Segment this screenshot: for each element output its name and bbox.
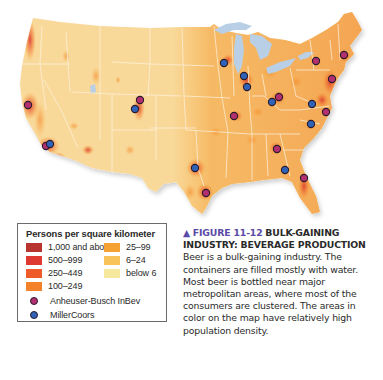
figure-number: FIGURE 11-12 — [193, 227, 263, 238]
swatch-100-249 — [26, 282, 42, 291]
legend-item-millercoors: MillerCoors — [26, 309, 166, 320]
legend-item-below-6: below 6 — [104, 268, 166, 278]
millercoors-brewery-marker — [281, 166, 288, 173]
millercoors-brewery-marker — [191, 164, 198, 171]
swatch-25-99 — [104, 243, 120, 252]
legend-label: 6–24 — [126, 255, 146, 265]
legend-title: Persons per square kilometer — [26, 228, 166, 239]
density-classes: 1,000 and above 25–99 500–999 6–24 250–4… — [26, 242, 166, 291]
millercoors-brewery-marker — [268, 98, 275, 105]
anheuser-busch-brewery-marker — [328, 75, 335, 82]
anheuser-busch-brewery-marker — [202, 189, 209, 196]
legend-label: 500–999 — [48, 255, 82, 265]
legend-item-6-24: 6–24 — [104, 255, 166, 265]
swatch-below-6 — [104, 269, 120, 278]
anheuser-busch-brewery-marker — [230, 112, 237, 119]
legend-label: Anheuser-Busch InBev — [50, 296, 140, 306]
legend-item-1000-above: 1,000 and above — [26, 242, 104, 252]
lake-superior — [214, 22, 252, 34]
millercoors-brewery-marker — [243, 83, 250, 90]
map-legend: Persons per square kilometer 1,000 and a… — [17, 223, 167, 322]
anheuser-busch-brewery-marker — [136, 96, 143, 103]
legend-label: below 6 — [126, 268, 156, 278]
millercoors-brewery-marker — [307, 120, 314, 127]
legend-label: 25–99 — [126, 242, 151, 252]
swatch-250-449 — [26, 269, 42, 278]
millercoors-brewery-marker — [308, 100, 315, 107]
millercoors-brewery-marker — [220, 59, 227, 66]
legend-item-250-449: 250–449 — [26, 268, 104, 278]
figure-caption: ▲ FIGURE 11-12 BULK-GAINING INDUSTRY: BE… — [183, 227, 379, 337]
anheuser-busch-dot-icon — [30, 297, 38, 305]
millercoors-brewery-marker — [240, 72, 247, 79]
anheuser-busch-brewery-marker — [275, 93, 282, 100]
anheuser-busch-brewery-marker — [340, 51, 347, 58]
millercoors-brewery-marker — [46, 140, 53, 147]
anheuser-busch-brewery-marker — [322, 108, 329, 115]
caption-triangle-icon: ▲ — [183, 227, 190, 238]
swatch-6-24 — [104, 256, 120, 265]
legend-label: 100–249 — [48, 281, 82, 291]
swatch-1000-above — [26, 243, 42, 252]
millercoors-brewery-marker — [131, 105, 138, 112]
legend-label: 250–449 — [48, 268, 82, 278]
legend-item-anheuser-busch: Anheuser-Busch InBev — [26, 295, 166, 306]
anheuser-busch-brewery-marker — [300, 174, 307, 181]
millercoors-dot-icon — [30, 311, 38, 319]
legend-item-500-999: 500–999 — [26, 255, 104, 265]
caption-body: Beer is a bulk-gaining industry. The con… — [183, 251, 358, 335]
anheuser-busch-brewery-marker — [273, 145, 280, 152]
anheuser-busch-brewery-marker — [312, 57, 319, 64]
anheuser-busch-brewery-marker — [24, 101, 31, 108]
legend-item-100-249: 100–249 — [26, 281, 104, 291]
legend-label: MillerCoors — [50, 310, 94, 320]
legend-item-25-99: 25–99 — [104, 242, 166, 252]
swatch-500-999 — [26, 256, 42, 265]
population-density-map — [0, 0, 383, 225]
